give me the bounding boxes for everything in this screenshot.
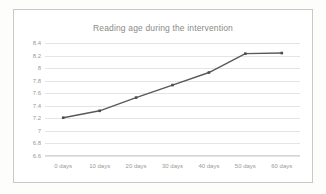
y-axis-tick-label: 6.6 bbox=[33, 153, 41, 159]
x-axis-tick-label: 50 days bbox=[235, 163, 256, 169]
y-axis-tick-label: 7.4 bbox=[33, 103, 41, 109]
x-axis-tick-label: 0 days bbox=[54, 163, 72, 169]
chart-title: Reading age during the intervention bbox=[14, 23, 312, 33]
x-axis-tick-label: 40 days bbox=[198, 163, 219, 169]
data-point-marker bbox=[171, 84, 174, 87]
y-axis-tick-label: 6.8 bbox=[33, 140, 41, 146]
data-point-marker bbox=[208, 71, 211, 74]
y-axis-tick-label: 8.4 bbox=[33, 40, 41, 46]
y-axis-tick-label: 7.8 bbox=[33, 78, 41, 84]
data-point-marker bbox=[62, 116, 65, 119]
x-axis-tick-label: 30 days bbox=[162, 163, 183, 169]
data-point-marker bbox=[280, 52, 283, 55]
chart-frame: Reading age during the intervention 6.66… bbox=[13, 9, 313, 183]
y-axis-tick-label: 8.2 bbox=[33, 53, 41, 59]
x-axis-tick-label: 20 days bbox=[126, 163, 147, 169]
series-markers bbox=[62, 52, 283, 119]
data-point-marker bbox=[135, 96, 138, 99]
y-axis-tick-label: 7.6 bbox=[33, 90, 41, 96]
x-axis-tick-label: 10 days bbox=[89, 163, 110, 169]
y-axis-tick-label: 8 bbox=[38, 65, 41, 71]
y-axis-tick-label: 7 bbox=[38, 128, 41, 134]
data-point-marker bbox=[244, 52, 247, 55]
line-series bbox=[45, 43, 300, 156]
x-axis-tick-label: 60 days bbox=[271, 163, 292, 169]
data-point-marker bbox=[98, 110, 101, 113]
plot-area: 6.66.877.27.47.67.888.28.4 0 days10 days… bbox=[45, 43, 300, 156]
gridline bbox=[45, 156, 300, 157]
y-axis-tick-label: 7.2 bbox=[33, 115, 41, 121]
